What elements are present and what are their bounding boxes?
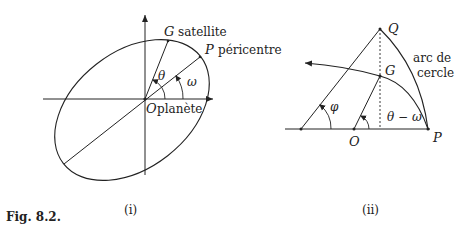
label-arc-de: arc de bbox=[413, 51, 451, 65]
point-g bbox=[167, 40, 170, 43]
label-pericentre: péricentre bbox=[218, 43, 282, 57]
label-p-ii: P bbox=[432, 130, 442, 145]
panel-ii: Q G O P arc de cercle φ θ − ω (ii) bbox=[285, 21, 454, 217]
panel-label-ii: (ii) bbox=[362, 203, 379, 217]
label-p-letter: P bbox=[204, 42, 214, 57]
label-planete: planète bbox=[157, 102, 202, 116]
theta-minus-omega-arc bbox=[361, 116, 369, 129]
label-theta-minus-omega: θ − ω bbox=[387, 110, 422, 124]
label-cercle: cercle bbox=[417, 66, 454, 80]
line-to-q bbox=[301, 29, 380, 129]
label-omega: ω bbox=[187, 75, 197, 89]
point-left bbox=[300, 128, 303, 131]
label-theta: θ bbox=[158, 69, 166, 83]
label-satellite: satellite bbox=[178, 25, 227, 39]
figure-canvas: G satellite P péricentre O planète θ ω (… bbox=[0, 0, 467, 235]
label-g-letter: G bbox=[164, 24, 174, 39]
label-phi: φ bbox=[330, 100, 339, 114]
label-g-ii: G bbox=[385, 63, 395, 78]
panel-label-i: (i) bbox=[124, 203, 137, 217]
figure-caption: Fig. 8.2. bbox=[6, 210, 61, 224]
point-g-ii bbox=[379, 75, 382, 78]
panel-i: G satellite P péricentre O planète θ ω (… bbox=[28, 11, 282, 217]
point-q bbox=[379, 28, 382, 31]
label-o-ii: O bbox=[349, 134, 360, 149]
point-p bbox=[199, 56, 202, 59]
label-o-letter: O bbox=[146, 101, 157, 116]
point-o-ii bbox=[353, 128, 356, 131]
label-q: Q bbox=[388, 21, 399, 36]
omega-arc bbox=[176, 76, 183, 99]
point-p-ii bbox=[427, 128, 430, 131]
